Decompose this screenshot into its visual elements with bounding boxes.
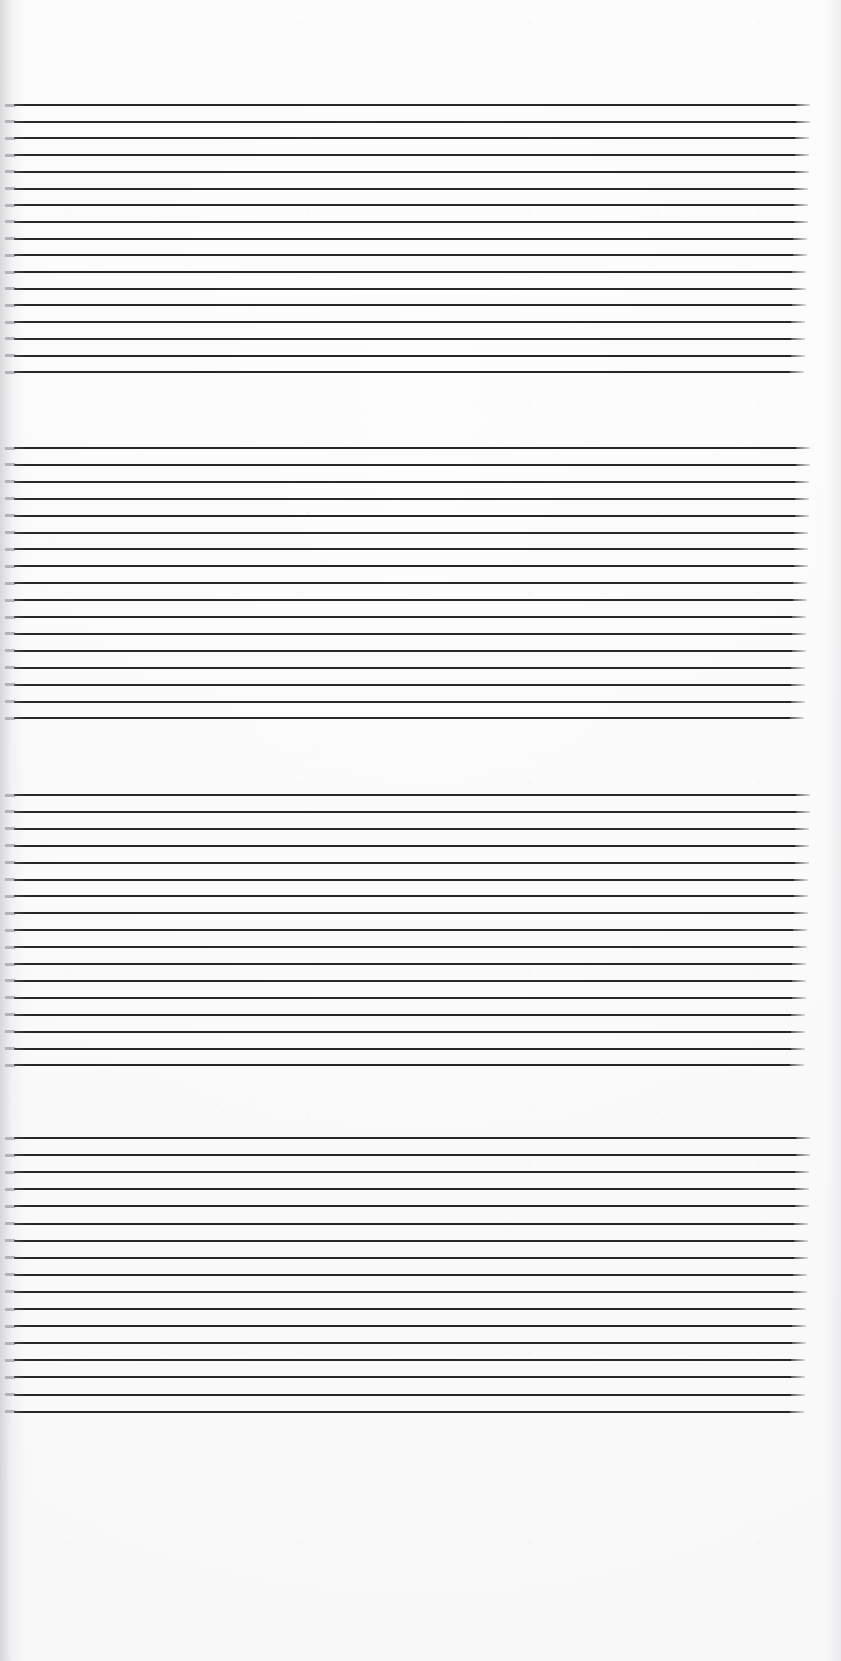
- rule-line: [14, 371, 790, 373]
- rule-line: [14, 616, 792, 618]
- rule-line: [14, 701, 791, 703]
- rule-line: [14, 271, 792, 273]
- rule-line: [14, 895, 794, 897]
- rule-line: [14, 1308, 792, 1310]
- rule-line: [14, 498, 795, 500]
- rule-line: [14, 912, 794, 914]
- rule-line: [14, 321, 791, 323]
- rule-line: [14, 221, 794, 223]
- rule-line: [14, 684, 791, 686]
- rule-line: [14, 963, 792, 965]
- rule-line: [14, 650, 792, 652]
- rule-line: [14, 1154, 796, 1156]
- rule-line: [14, 1291, 793, 1293]
- rule-line: [14, 667, 791, 669]
- rule-line: [14, 717, 790, 719]
- ruled-line-block-4: [14, 1137, 796, 1413]
- rule-line: [14, 447, 796, 449]
- rule-line: [14, 811, 796, 813]
- rule-line: [14, 1376, 791, 1378]
- rule-line: [14, 980, 792, 982]
- rule-line: [14, 1064, 790, 1066]
- rule-line: [14, 862, 795, 864]
- rule-line: [14, 1411, 790, 1413]
- rule-line: [14, 548, 794, 550]
- rule-line: [14, 565, 794, 567]
- rule-line: [14, 794, 796, 796]
- rule-line: [14, 204, 794, 206]
- rule-line: [14, 154, 795, 156]
- right-edge-shadow: [825, 0, 841, 1661]
- rule-line: [14, 599, 793, 601]
- rule-line: [14, 1359, 791, 1361]
- rule-line: [14, 1014, 791, 1016]
- rule-line: [14, 188, 794, 190]
- rule-line: [14, 137, 795, 139]
- rule-line: [14, 1031, 791, 1033]
- rule-line: [14, 1048, 791, 1050]
- rule-line: [14, 1188, 795, 1190]
- rule-line: [14, 946, 793, 948]
- rule-line: [14, 1205, 795, 1207]
- rule-line: [14, 828, 795, 830]
- rule-line: [14, 121, 796, 123]
- scanned-page: [0, 0, 841, 1661]
- rule-line: [14, 1325, 792, 1327]
- rule-line: [14, 1274, 793, 1276]
- rule-line: [14, 532, 794, 534]
- rule-line: [14, 997, 792, 999]
- ruled-line-block-1: [14, 104, 796, 373]
- rule-line: [14, 171, 795, 173]
- rule-line: [14, 481, 795, 483]
- rule-line: [14, 929, 793, 931]
- rule-line: [14, 845, 795, 847]
- rule-line: [14, 1257, 794, 1259]
- rule-line: [14, 238, 793, 240]
- rule-line: [14, 1137, 796, 1139]
- rule-line: [14, 104, 796, 106]
- ruled-line-block-3: [14, 794, 796, 1066]
- rule-line: [14, 1223, 794, 1225]
- rule-line: [14, 1171, 795, 1173]
- rule-line: [14, 582, 793, 584]
- rule-line: [14, 288, 792, 290]
- rule-line: [14, 464, 796, 466]
- rule-line: [14, 515, 795, 517]
- rule-line: [14, 879, 794, 881]
- rule-line: [14, 254, 793, 256]
- rule-line: [14, 355, 791, 357]
- rule-line: [14, 338, 791, 340]
- rule-line: [14, 1342, 792, 1344]
- rule-line: [14, 1394, 791, 1396]
- rule-line: [14, 1240, 794, 1242]
- rule-line: [14, 633, 792, 635]
- rule-line: [14, 304, 792, 306]
- ruled-line-block-2: [14, 447, 796, 719]
